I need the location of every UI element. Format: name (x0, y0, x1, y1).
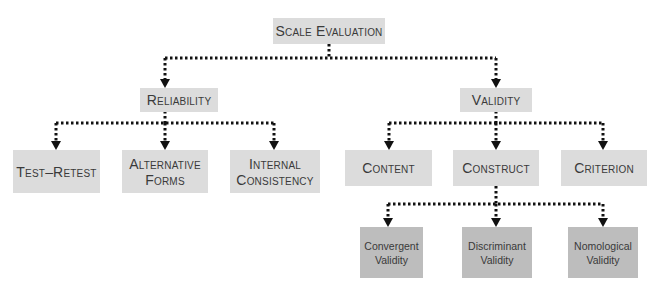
node-label-line1: Convergent (364, 239, 418, 253)
node-label-line2: Consistency (236, 172, 313, 188)
node-label-line1: Alternative (129, 156, 201, 172)
node-label-line2: Validity (480, 253, 513, 267)
node-label-line2: Forms (145, 172, 185, 188)
node-criterion: Criterion (561, 150, 647, 186)
node-label-line1: Discriminant (468, 239, 526, 253)
node-label: Reliability (147, 92, 212, 108)
node-test-retest: Test–Retest (13, 150, 100, 193)
node-alternative-forms: Alternative Forms (122, 150, 208, 193)
node-label: Criterion (574, 160, 634, 176)
node-label-line1: Internal (249, 156, 301, 172)
node-label: Content (362, 160, 415, 176)
node-convergent-validity: Convergent Validity (360, 227, 423, 278)
node-internal-consistency: Internal Consistency (230, 150, 320, 193)
node-discriminant-validity: Discriminant Validity (462, 227, 532, 278)
node-label: Validity (472, 92, 521, 108)
node-label-line2: Validity (586, 253, 619, 267)
node-scale-evaluation: Scale Evaluation (273, 18, 385, 44)
node-label: Construct (462, 160, 529, 176)
node-label-line1: Nomological (574, 239, 632, 253)
node-reliability: Reliability (140, 88, 218, 112)
node-construct: Construct (453, 150, 539, 186)
node-nomological-validity: Nomological Validity (568, 227, 638, 278)
node-label-line2: Validity (375, 253, 408, 267)
node-label: Test–Retest (16, 164, 96, 180)
node-content: Content (345, 150, 432, 186)
node-validity: Validity (460, 88, 532, 112)
node-label: Scale Evaluation (275, 23, 382, 39)
